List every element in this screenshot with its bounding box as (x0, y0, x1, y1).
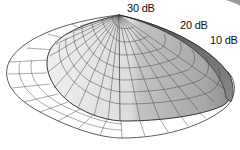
label-30db: 30 dB (127, 2, 155, 14)
corner-arc-fragment (226, 0, 240, 6)
label-20db: 20 dB (180, 19, 208, 31)
label-10db: 10 dB (210, 34, 238, 46)
